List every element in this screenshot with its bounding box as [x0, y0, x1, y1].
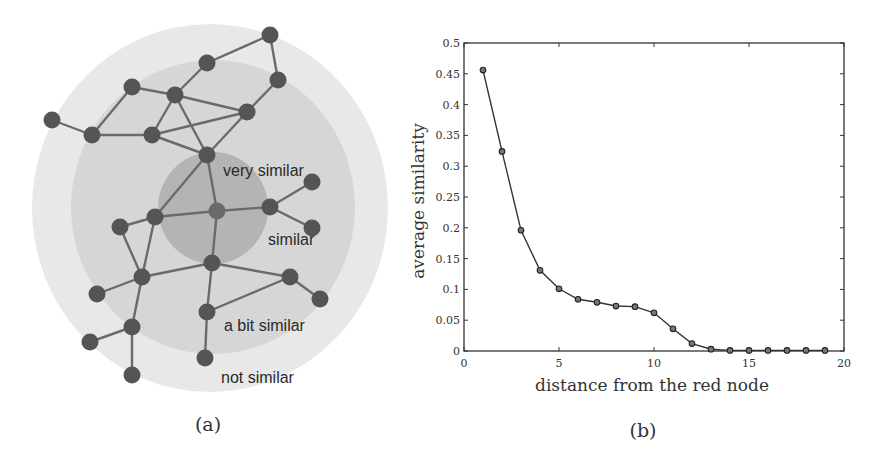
network-diagram-panel: very similarsimilara bit similarnot simi…: [32, 24, 388, 435]
ring-label: a bit similar: [224, 317, 306, 334]
network-node: [262, 27, 279, 44]
similarity-line-chart-panel: 05101520 00.050.10.150.20.250.30.350.40.…: [408, 37, 851, 441]
data-point-marker: [727, 348, 733, 354]
y-tick-label: 0.5: [443, 37, 461, 50]
x-tick-label: 15: [742, 357, 756, 370]
network-node: [270, 72, 287, 89]
network-node: [112, 219, 129, 236]
network-node: [262, 199, 279, 216]
network-node: [124, 79, 141, 96]
data-point-marker: [575, 296, 581, 302]
y-tick-label: 0.1: [443, 283, 461, 296]
y-tick-label: 0.05: [436, 314, 461, 327]
data-point-marker: [784, 348, 790, 354]
y-tick-label: 0.2: [443, 222, 461, 235]
red-node: [209, 203, 226, 220]
data-point-marker: [689, 341, 695, 347]
data-point-marker: [746, 348, 752, 354]
data-point-marker: [499, 149, 505, 155]
network-node: [44, 112, 61, 129]
network-node: [199, 304, 216, 321]
x-tick-label: 10: [647, 357, 661, 370]
data-point-marker: [803, 348, 809, 354]
network-node: [84, 127, 101, 144]
data-point-marker: [651, 310, 657, 316]
data-point-marker: [765, 348, 771, 354]
network-node: [144, 127, 161, 144]
ring-label: not similar: [221, 369, 295, 386]
ring-label: very similar: [223, 162, 305, 179]
data-point-marker: [594, 300, 600, 306]
x-tick-label: 20: [837, 357, 851, 370]
network-node: [282, 269, 299, 286]
ring-label: similar: [268, 231, 315, 248]
network-node: [204, 255, 221, 272]
x-tick-label: 5: [556, 357, 563, 370]
plot-area: [464, 43, 844, 351]
network-node: [304, 174, 321, 191]
x-axis-label: distance from the red node: [535, 375, 769, 395]
network-node: [199, 147, 216, 164]
y-tick-label: 0.25: [436, 191, 461, 204]
data-point-marker: [556, 286, 562, 292]
panel-a-caption: (a): [195, 413, 221, 435]
data-point-marker: [518, 227, 524, 233]
y-tick-label: 0.3: [443, 160, 461, 173]
y-tick-label: 0.35: [436, 129, 461, 142]
y-tick-label: 0.45: [436, 68, 461, 81]
data-point-marker: [537, 268, 543, 274]
y-tick-label: 0.4: [443, 99, 461, 112]
y-tick-label: 0: [453, 345, 460, 358]
network-node: [239, 104, 256, 121]
data-point-marker: [670, 326, 676, 332]
data-point-marker: [480, 67, 486, 73]
network-node: [89, 286, 106, 303]
y-tick-label: 0.15: [436, 253, 461, 266]
data-point-marker: [613, 303, 619, 309]
panel-b-caption: (b): [630, 419, 657, 441]
network-node: [197, 350, 214, 367]
x-tick-label: 0: [461, 357, 468, 370]
network-node: [124, 319, 141, 336]
data-point-marker: [632, 304, 638, 310]
network-node: [199, 55, 216, 72]
network-node: [124, 367, 141, 384]
figure: very similarsimilara bit similarnot simi…: [0, 0, 884, 469]
y-axis-label: average similarity: [408, 123, 428, 279]
data-point-marker: [822, 348, 828, 354]
network-node: [147, 209, 164, 226]
network-node: [134, 269, 151, 286]
network-node: [312, 291, 329, 308]
network-node: [82, 334, 99, 351]
network-node: [167, 87, 184, 104]
data-point-marker: [708, 346, 714, 352]
